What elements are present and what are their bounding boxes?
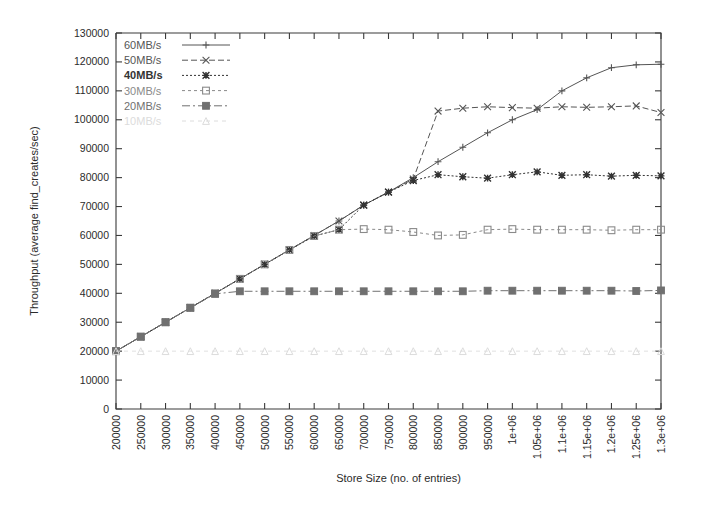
data-point-marker xyxy=(187,304,194,311)
data-point-marker xyxy=(484,129,491,136)
x-tick-label: 1e+06 xyxy=(506,415,518,445)
data-point-marker xyxy=(559,172,566,179)
data-point-marker xyxy=(608,173,615,180)
x-tick-label: 1.25e+06 xyxy=(630,415,642,459)
data-point-marker xyxy=(162,319,169,326)
x-tick-label: 250000 xyxy=(135,415,147,450)
x-tick-label: 400000 xyxy=(209,415,221,450)
x-axis-title: Store Size (no. of entries) xyxy=(336,472,461,484)
data-point-marker xyxy=(583,171,590,178)
data-point-marker xyxy=(633,61,640,68)
data-point-marker xyxy=(236,275,243,282)
data-point-marker xyxy=(435,171,442,178)
y-tick-label: 90000 xyxy=(80,142,109,154)
series-line xyxy=(116,172,661,351)
series-50MB-per-s xyxy=(113,102,665,354)
data-point-marker xyxy=(658,172,665,179)
x-tick-label: 750000 xyxy=(383,415,395,450)
data-point-marker xyxy=(509,116,516,123)
legend-label-30MB-per-s: 30MB/s xyxy=(124,85,162,97)
x-tick-label: 950000 xyxy=(482,415,494,450)
data-point-marker xyxy=(484,287,491,294)
x-tick-label: 550000 xyxy=(283,415,295,450)
data-point-marker xyxy=(435,288,442,295)
series-40MB-per-s xyxy=(113,168,665,354)
data-point-marker xyxy=(435,158,442,165)
legend-label-50MB-per-s: 50MB/s xyxy=(124,54,162,66)
x-tick-label: 700000 xyxy=(358,415,370,450)
plot-frame xyxy=(116,33,661,409)
data-point-marker xyxy=(608,64,615,71)
data-point-marker xyxy=(459,173,466,180)
series-line xyxy=(116,106,661,351)
series-layer xyxy=(113,61,665,355)
legend-label-40MB-per-s: 40MB/s xyxy=(124,69,163,81)
data-point-marker xyxy=(534,168,541,175)
x-tick-label: 1.15e+06 xyxy=(581,415,593,459)
data-point-marker xyxy=(203,102,210,109)
series-line xyxy=(116,64,661,351)
x-tick-label: 500000 xyxy=(259,415,271,450)
x-tick-label: 1.1e+06 xyxy=(556,415,568,453)
data-point-marker xyxy=(559,287,566,294)
legend-label-20MB-per-s: 20MB/s xyxy=(124,100,162,112)
x-tick-label: 600000 xyxy=(308,415,320,450)
chart-figure: 0100002000030000400005000060000700008000… xyxy=(0,0,701,507)
series-60MB-per-s xyxy=(113,61,665,355)
data-point-marker xyxy=(484,175,491,182)
x-tick-label: 1.3e+06 xyxy=(655,415,667,453)
data-point-marker xyxy=(633,288,640,295)
x-tick-label: 450000 xyxy=(234,415,246,450)
y-tick-label: 80000 xyxy=(80,171,109,183)
series-10MB-per-s xyxy=(113,348,665,355)
data-point-marker xyxy=(311,288,318,295)
data-point-marker xyxy=(203,72,210,79)
y-tick-label: 70000 xyxy=(80,200,109,212)
data-point-marker xyxy=(336,288,343,295)
data-point-marker xyxy=(360,288,367,295)
data-point-marker xyxy=(203,42,210,49)
data-point-marker xyxy=(261,288,268,295)
y-tick-label: 100000 xyxy=(74,113,109,125)
x-tick-label: 900000 xyxy=(457,415,469,450)
x-tick-label: 350000 xyxy=(184,415,196,450)
data-point-marker xyxy=(410,177,417,184)
series-20MB-per-s xyxy=(113,287,665,355)
x-axis: 2000002500003000003500004000004500005000… xyxy=(110,33,667,459)
data-point-marker xyxy=(583,74,590,81)
y-axis-title: Throughput (average find_creates/sec) xyxy=(28,126,40,316)
y-tick-label: 50000 xyxy=(80,258,109,270)
y-tick-label: 40000 xyxy=(80,287,109,299)
data-point-marker xyxy=(410,288,417,295)
data-point-marker xyxy=(509,287,516,294)
data-point-marker xyxy=(137,333,144,340)
x-tick-label: 850000 xyxy=(432,415,444,450)
data-point-marker xyxy=(212,290,219,297)
data-point-marker xyxy=(633,172,640,179)
data-point-marker xyxy=(534,287,541,294)
y-tick-label: 130000 xyxy=(74,27,109,39)
legend-label-10MB-per-s: 10MB/s xyxy=(124,115,162,127)
y-tick-label: 20000 xyxy=(80,345,109,357)
y-tick-label: 60000 xyxy=(80,229,109,241)
data-point-marker xyxy=(385,288,392,295)
data-point-marker xyxy=(509,171,516,178)
data-point-marker xyxy=(658,287,665,294)
y-tick-label: 30000 xyxy=(80,316,109,328)
y-tick-label: 120000 xyxy=(74,55,109,67)
data-point-marker xyxy=(459,288,466,295)
x-tick-label: 200000 xyxy=(110,415,122,450)
x-tick-label: 1.05e+06 xyxy=(531,415,543,459)
series-line xyxy=(116,290,661,351)
line-chart-svg: 0100002000030000400005000060000700008000… xyxy=(0,0,701,507)
x-tick-label: 1.2e+06 xyxy=(605,415,617,453)
legend-label-60MB-per-s: 60MB/s xyxy=(124,39,162,51)
chart-legend: 60MB/s50MB/s40MB/s30MB/s20MB/s10MB/s xyxy=(124,39,230,127)
y-tick-label: 110000 xyxy=(75,84,109,96)
data-point-marker xyxy=(360,202,367,209)
data-point-marker xyxy=(608,287,615,294)
data-point-marker xyxy=(385,189,392,196)
x-tick-label: 800000 xyxy=(407,415,419,450)
data-point-marker xyxy=(286,288,293,295)
data-point-marker xyxy=(583,287,590,294)
